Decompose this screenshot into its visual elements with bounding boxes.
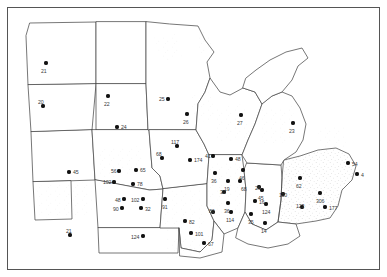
- data-point-label: 32: [220, 190, 226, 195]
- data-point-label: 36: [211, 179, 217, 184]
- data-point-label: 124: [131, 235, 139, 240]
- data-point-label: 86: [209, 209, 215, 214]
- data-point-label: 27: [237, 121, 243, 126]
- data-point-label: 4: [361, 173, 364, 178]
- data-point-label: 68: [156, 152, 162, 157]
- data-point-label: 24: [121, 125, 127, 130]
- dot-distribution-map: 2120222425262723117681744148455665102784…: [0, 0, 387, 277]
- data-point-label: 102: [131, 198, 139, 203]
- data-point-label: 177: [329, 206, 337, 211]
- data-point-label: 67: [208, 242, 214, 247]
- data-point-label: 91: [162, 205, 168, 210]
- data-point-label: 78: [137, 182, 143, 187]
- data-point-label: 26: [183, 120, 189, 125]
- data-point-label: 114: [226, 218, 234, 223]
- data-point-label: 102: [103, 180, 111, 185]
- data-point-label: 110: [279, 193, 287, 198]
- data-point-label: 68: [241, 187, 247, 192]
- data-point-label: 48: [235, 157, 241, 162]
- data-point-label: 90: [113, 207, 119, 212]
- data-point-label: 123: [296, 204, 304, 209]
- data-point-label: 56: [111, 169, 117, 174]
- state-colorado: [31, 130, 95, 182]
- data-point-label: 117: [171, 140, 179, 145]
- data-point-label: 22: [104, 102, 110, 107]
- data-point-label: 41: [205, 154, 211, 159]
- data-point-label: 20: [38, 100, 44, 105]
- data-point-label: 14: [261, 229, 267, 234]
- data-point-label: 35: [248, 220, 254, 225]
- map-graphic: [0, 0, 387, 277]
- data-point-label: 32: [145, 207, 151, 212]
- data-point-label: 54: [352, 162, 358, 167]
- data-point-label: 65: [140, 168, 146, 173]
- data-point-label: 45: [73, 170, 79, 175]
- state-montana: [26, 22, 96, 85]
- state-wyoming: [28, 84, 96, 132]
- data-point-label: 26: [255, 186, 261, 191]
- data-point-label: 48: [115, 198, 121, 203]
- data-point-label: 101: [195, 232, 203, 237]
- data-point-label: 25: [159, 97, 165, 102]
- data-point-label: 62: [296, 184, 302, 189]
- data-point-label: 124: [262, 210, 270, 215]
- data-point-label: 46: [239, 176, 245, 181]
- data-point-label: 21: [41, 69, 47, 74]
- data-point-label: 21: [66, 229, 72, 234]
- data-point-label: 306: [316, 199, 324, 204]
- data-point-label: 36: [224, 209, 230, 214]
- data-point-label: 16: [259, 200, 265, 205]
- data-point-label: 174: [194, 158, 202, 163]
- data-point-label: 82: [189, 220, 195, 225]
- state-ohio: [278, 148, 356, 224]
- state-north-dakota: [96, 22, 146, 84]
- data-point-label: 23: [289, 129, 295, 134]
